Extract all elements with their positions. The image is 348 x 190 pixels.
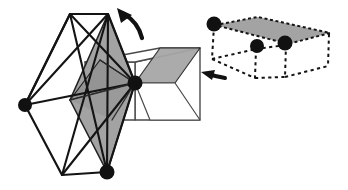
left-vertex-dot <box>18 98 32 112</box>
right-front-vertex-dot <box>278 36 293 51</box>
crease-tr-bottom <box>107 14 108 172</box>
right-top-left-vertex-dot <box>207 17 222 32</box>
bottom-vertex-dot <box>100 165 115 180</box>
figure-root <box>0 0 348 190</box>
right-mid-vertex-dot <box>250 39 264 53</box>
geometry-figure <box>0 0 348 190</box>
center-right-vertex-dot <box>128 76 143 91</box>
